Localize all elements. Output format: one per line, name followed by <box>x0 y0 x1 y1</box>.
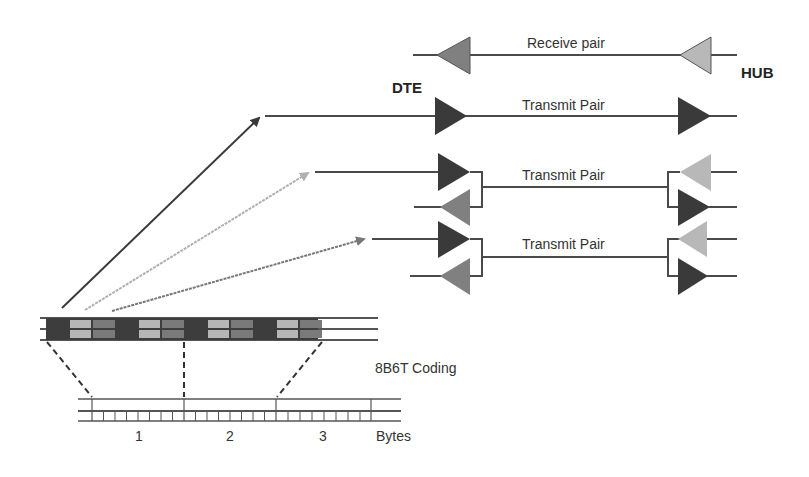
8b6t-diagram <box>0 0 809 477</box>
transmit-amp-dte <box>435 97 467 135</box>
dte-label: DTE <box>392 79 422 96</box>
bidirectional-pair-3 <box>372 221 737 295</box>
receive-amp-hub <box>680 37 711 74</box>
coding-label: 8B6T Coding <box>375 360 456 376</box>
receive-pair-label: Receive pair <box>527 35 605 51</box>
bytes-label: Bytes <box>376 428 411 444</box>
transmit-amp-hub <box>678 97 711 135</box>
transmit-pair-1-label: Transmit Pair <box>522 97 605 113</box>
mapping-dashes <box>47 342 322 397</box>
transmit-pair-3-label: Transmit Pair <box>522 236 605 252</box>
receive-amp-dte <box>437 37 470 74</box>
bidirectional-pair-2 <box>315 153 737 226</box>
transmit-pair-2-label: Transmit Pair <box>522 167 605 183</box>
ternary-signal-bar <box>40 318 378 340</box>
transmit-pair-1-line <box>265 97 737 135</box>
byte-1-label: 1 <box>135 428 143 444</box>
hub-label: HUB <box>741 64 774 81</box>
byte-2-label: 2 <box>226 428 234 444</box>
byte-3-label: 3 <box>319 428 327 444</box>
byte-grid <box>78 399 401 421</box>
fanout-arrows <box>62 118 364 311</box>
